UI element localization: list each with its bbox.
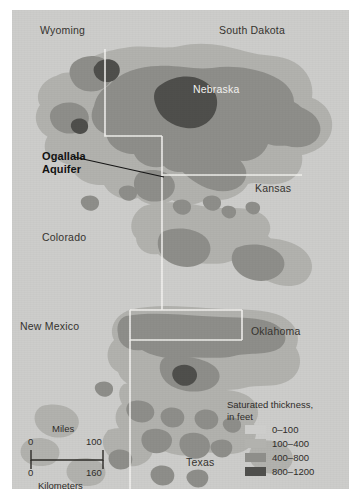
state-label-south-dakota: South Dakota (219, 24, 285, 36)
state-label-texas: Texas (186, 456, 214, 468)
legend-row-0-100: 0–100 (227, 423, 349, 436)
legend-title: Saturated thickness, in feet (227, 399, 349, 422)
legend-label-100-400: 100–400 (272, 438, 309, 449)
legend-swatch-100-400 (245, 439, 266, 448)
state-label-new-mexico: New Mexico (20, 320, 79, 332)
legend-swatch-800-1200 (245, 467, 266, 476)
state-label-kansas: Kansas (255, 182, 291, 194)
scale-bar-graphic (20, 449, 140, 471)
legend-label-800-1200: 800–1200 (272, 466, 314, 477)
legend-row-100-400: 100–400 (227, 437, 349, 450)
aquifer-annotation-label: Ogallala Aquifer (42, 150, 86, 175)
scale-km-end: 160 (86, 467, 102, 478)
legend-swatch-0-100 (245, 425, 266, 434)
scale-miles-unit: Miles (52, 423, 74, 434)
legend-title-line1: Saturated thickness, (227, 399, 349, 411)
legend-row-800-1200: 800–1200 (227, 465, 349, 478)
scale-bar: Miles 0 100 0 160 Kilometers (20, 423, 140, 485)
legend-title-line2: in feet (227, 411, 349, 423)
legend-swatch-400-800 (245, 453, 266, 462)
scale-miles-start: 0 (28, 436, 33, 447)
legend-row-400-800: 400–800 (227, 451, 349, 464)
state-label-oklahoma: Oklahoma (251, 325, 300, 337)
state-label-wyoming: Wyoming (40, 24, 85, 36)
aquifer-annotation-line1: Ogallala (42, 150, 86, 163)
scale-km-start: 0 (28, 467, 33, 478)
scale-miles-end: 100 (86, 436, 102, 447)
legend: Saturated thickness, in feet 0–100 100–4… (227, 399, 349, 478)
aquifer-annotation-line2: Aquifer (42, 163, 86, 176)
state-label-nebraska: Nebraska (193, 83, 240, 95)
state-label-colorado: Colorado (42, 231, 86, 243)
legend-label-400-800: 400–800 (272, 452, 309, 463)
scale-kilometers-unit: Kilometers (38, 480, 83, 489)
legend-label-0-100: 0–100 (272, 424, 298, 435)
map-figure: Wyoming South Dakota Nebraska Kansas Col… (0, 0, 349, 504)
map-plate: Wyoming South Dakota Nebraska Kansas Col… (12, 10, 349, 489)
